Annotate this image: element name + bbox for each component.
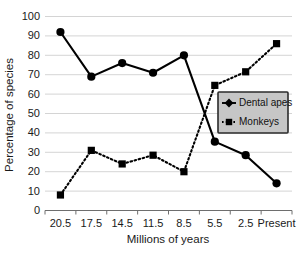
y-axis-tick-label: 100: [22, 10, 40, 22]
y-axis-tick-label: 80: [28, 49, 40, 61]
x-axis-title: Millions of years: [127, 233, 210, 245]
x-axis-tick-label: 20.5: [50, 217, 71, 229]
data-point-monkeys: [273, 40, 280, 47]
data-point-monkeys: [57, 191, 64, 198]
y-axis-tick-label: 20: [28, 165, 40, 177]
data-point-dental-apes: [149, 69, 157, 77]
data-point-monkeys: [242, 68, 249, 75]
y-axis-tick-label: 40: [28, 126, 40, 138]
data-point-dental-apes: [211, 138, 219, 146]
data-point-dental-apes: [272, 179, 280, 187]
legend-square-icon: [226, 119, 232, 125]
x-axis-tick-label: Present: [258, 217, 296, 229]
y-axis-tick-label: 90: [28, 29, 40, 41]
data-point-dental-apes: [180, 51, 188, 59]
y-axis-tick-label: 30: [28, 146, 40, 158]
data-point-monkeys: [119, 160, 126, 167]
legend-label: Monkeys: [239, 116, 279, 127]
data-point-dental-apes: [87, 73, 95, 81]
x-axis-tick-label: 5.5: [207, 217, 222, 229]
x-axis-tick-label: 8.5: [176, 217, 191, 229]
y-axis-tick-label: 50: [28, 107, 40, 119]
data-point-dental-apes: [242, 151, 250, 159]
data-point-monkeys: [88, 147, 95, 154]
chart-legend[interactable]: Dental apesMonkeys: [218, 92, 292, 133]
x-axis-tick-label: 17.5: [81, 217, 102, 229]
data-point-monkeys: [211, 82, 218, 89]
y-axis-title: Percentage of species: [3, 58, 15, 172]
y-axis-tick-label: 60: [28, 88, 40, 100]
x-axis-tick-label: 11.5: [143, 217, 164, 229]
y-axis-tick-label: 0: [34, 204, 40, 216]
data-point-monkeys: [149, 152, 156, 159]
y-axis-tick-label: 10: [28, 185, 40, 197]
chart-canvas: 0102030405060708090100 20.517.514.511.58…: [0, 0, 298, 254]
data-point-dental-apes: [118, 59, 126, 67]
y-axis-tick-label: 70: [28, 68, 40, 80]
data-point-dental-apes: [56, 28, 64, 36]
legend-label: Dental apes: [239, 97, 292, 108]
x-axis-tick-label: 14.5: [111, 217, 132, 229]
x-axis-tick-label: 2.5: [238, 217, 253, 229]
data-point-monkeys: [180, 168, 187, 175]
line-chart: 0102030405060708090100 20.517.514.511.58…: [0, 0, 298, 254]
